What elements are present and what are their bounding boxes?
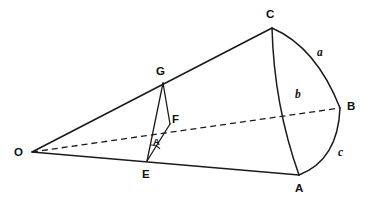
side-label-a: a xyxy=(317,47,323,59)
angle-label-A: A xyxy=(153,137,160,147)
side-label-c: c xyxy=(338,147,343,159)
geometry-canvas xyxy=(0,0,369,201)
vertex-label-E: E xyxy=(142,169,150,181)
geometry-diagram: O C B A G F E a b c A xyxy=(0,0,369,201)
vertex-label-C: C xyxy=(266,9,274,21)
side-label-b: b xyxy=(295,89,301,101)
arc-b-C-to-A xyxy=(272,28,299,175)
segment-O-to-A xyxy=(32,152,299,175)
arc-a-C-to-B xyxy=(272,28,340,108)
vertex-label-F: F xyxy=(172,114,179,126)
vertex-label-B: B xyxy=(347,101,355,113)
vertex-label-A: A xyxy=(295,183,303,195)
segment-G-to-F xyxy=(163,83,170,124)
vertex-label-O: O xyxy=(14,147,23,159)
vertex-label-G: G xyxy=(156,66,165,78)
segment-O-to-B-dashed xyxy=(32,108,340,152)
arc-c-B-to-A xyxy=(299,108,340,175)
